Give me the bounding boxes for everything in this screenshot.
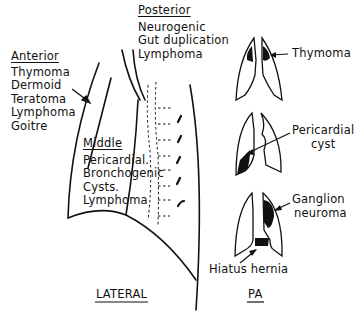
- pa-ganglion-figure: [235, 193, 290, 263]
- anterior-label-group: Anterior Thymoma Dermoid Teratoma Lympho…: [11, 50, 76, 133]
- posterior-item: Neurogenic: [138, 21, 229, 35]
- middle-heading: Middle: [83, 137, 164, 151]
- middle-item: Pericardial.: [83, 154, 164, 168]
- pa-neuroma-line2: neuroma: [292, 207, 347, 221]
- anterior-heading: Anterior: [11, 50, 76, 64]
- posterior-label-group: Posterior Neurogenic Gut duplication Lym…: [138, 4, 229, 61]
- posterior-item: Gut duplication: [138, 34, 229, 48]
- pa-pericardial-line1: Pericardial: [292, 124, 354, 138]
- anterior-item: Thymoma: [11, 66, 76, 80]
- posterior-chest-wall: [190, 85, 199, 310]
- middle-item: Lymphoma: [83, 194, 164, 208]
- anterior-item: Goitre: [11, 120, 76, 134]
- anterior-item: Teratoma: [11, 93, 76, 107]
- lateral-caption: LATERAL: [96, 288, 147, 302]
- pa-caption: PA: [248, 288, 262, 302]
- pa-pericardial-cyst-label: Pericardial cyst: [292, 124, 354, 151]
- middle-item: Bronchogenic: [83, 167, 164, 181]
- anterior-item: Lymphoma: [11, 106, 76, 120]
- posterior-item: Lymphoma: [138, 48, 229, 62]
- pa-thymoma-figure: [236, 38, 288, 100]
- anterior-item: Dermoid: [11, 79, 76, 93]
- pa-ganglion-neuroma-label: Ganglion neuroma: [292, 193, 347, 220]
- pa-cyst-line2: cyst: [292, 138, 354, 152]
- diaphragm: [68, 211, 196, 280]
- middle-item: Cysts.: [83, 181, 164, 195]
- pa-hiatus-hernia-label: Hiatus hernia: [209, 263, 288, 277]
- rib-marks: [177, 116, 184, 206]
- middle-label-group: Middle Pericardial. Bronchogenic Cysts. …: [83, 137, 164, 208]
- pa-ganglion-line1: Ganglion: [292, 193, 347, 207]
- pa-thymoma-label: Thymoma: [292, 47, 351, 61]
- pa-pericardial-cyst-figure: [236, 113, 290, 175]
- posterior-heading: Posterior: [138, 4, 229, 18]
